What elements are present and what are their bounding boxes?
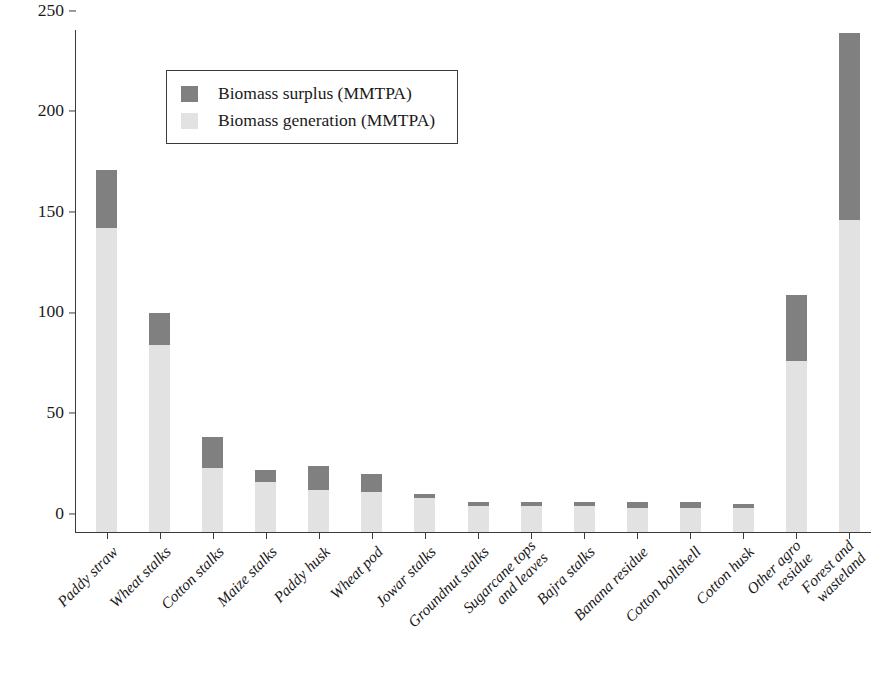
bar-segment-surplus [361,474,382,492]
bar-segment-surplus [733,504,754,508]
y-axis-tick: 0 [55,503,76,522]
y-axis-tick-label: 50 [47,404,65,422]
x-axis-tick-mark [584,532,585,539]
bar-segment-surplus [574,502,595,506]
bar-segment-surplus [786,295,807,361]
legend-color-swatch [181,113,198,129]
bar-segment-surplus [308,466,329,490]
y-axis-tick-label: 150 [38,203,64,221]
bar-segment-surplus [680,502,701,508]
bar-segment-generation [733,508,754,532]
bar-segment-generation [255,482,276,532]
bar-group [149,313,170,532]
bar-segment-surplus [202,437,223,467]
bar-group [468,502,489,532]
y-axis-tick-mark [69,413,76,414]
y-axis-tick-mark [69,111,76,112]
bar-group [733,504,754,532]
x-axis-tick-mark [107,532,108,539]
x-axis-tick-mark [849,532,850,539]
bar-segment-surplus [839,33,860,220]
legend-color-swatch [181,86,198,102]
x-axis-tick-label: Paddy husk [270,543,333,606]
bar-group [680,502,701,532]
x-axis-tick-label: Forest andwasteland [798,537,870,609]
x-axis-tick-mark [213,532,214,539]
y-axis-tick: 150 [38,202,76,221]
bar-segment-generation [521,506,542,532]
x-axis-tick-label-line: Paddy husk [270,543,333,606]
bar-group [414,494,435,532]
legend-item-label: Biomass surplus (MMTPA) [218,85,412,103]
bar-segment-surplus [627,502,648,508]
y-axis-tick-mark [69,10,76,11]
x-axis-tick-mark [425,532,426,539]
bar-segment-generation [361,492,382,532]
x-axis-tick-mark [796,532,797,539]
x-axis-tick-label: Other agroresidue [744,537,817,610]
bar-group [521,502,542,532]
bar-segment-generation [414,498,435,532]
y-axis-tick-label: 0 [55,505,64,523]
x-axis-tick-mark [372,532,373,539]
bar-group [627,502,648,532]
bar-group [255,470,276,532]
y-axis-tick-label: 100 [38,304,64,322]
x-axis-tick-mark [637,532,638,539]
biomass-stacked-bar-chart: 050100150200250 Paddy strawWheat stalksC… [0,0,881,675]
x-axis-tick-mark [160,532,161,539]
bar-segment-surplus [414,494,435,498]
bar-segment-generation [574,506,595,532]
x-axis-tick-mark [478,532,479,539]
y-axis-tick-mark [69,312,76,313]
bar-segment-generation [468,506,489,532]
bar-segment-generation [680,508,701,532]
bar-group [308,466,329,532]
bar-segment-generation [149,345,170,532]
x-axis-tick-mark [319,532,320,539]
y-axis-tick-label: 200 [38,103,64,121]
legend-item-label: Biomass generation (MMTPA) [218,112,435,130]
plot-area: 050100150200250 Paddy strawWheat stalksC… [75,30,871,533]
bar-segment-generation [839,220,860,532]
y-axis-tick-label: 250 [38,2,64,20]
bar-group [96,170,117,532]
legend-item: Biomass generation (MMTPA) [181,107,435,134]
bar-segment-surplus [521,502,542,506]
bar-segment-generation [202,468,223,532]
bar-segment-surplus [96,170,117,228]
x-axis-tick-mark [531,532,532,539]
bar-group [839,33,860,532]
x-axis-tick-mark [266,532,267,539]
legend-item: Biomass surplus (MMTPA) [181,80,435,107]
bar-segment-surplus [255,470,276,482]
chart-legend: Biomass surplus (MMTPA)Biomass generatio… [166,70,458,144]
x-axis-tick-mark [690,532,691,539]
x-axis-tick-mark [743,532,744,539]
bar-group [574,502,595,532]
y-axis-tick-mark [69,513,76,514]
bar-group [202,437,223,532]
bar-segment-generation [786,361,807,532]
bar-segment-surplus [149,313,170,345]
y-axis-tick: 200 [38,101,76,120]
bar-segment-generation [627,508,648,532]
bar-group [786,295,807,532]
y-axis-tick: 100 [38,302,76,321]
bar-segment-generation [96,228,117,532]
y-axis-tick-mark [69,211,76,212]
y-axis-tick: 250 [38,0,76,19]
bar-segment-surplus [468,502,489,506]
y-axis-tick: 50 [47,403,77,422]
bar-segment-generation [308,490,329,532]
bar-group [361,474,382,532]
